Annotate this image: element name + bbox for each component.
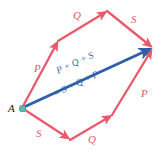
vector-addition-figure: A P Q S S Q P P + Q + S = S + Q + P — [0, 0, 164, 152]
label-upper-p: P — [34, 63, 41, 74]
label-upper-s: S — [131, 14, 137, 25]
vector-arrow-lower-s — [22, 108, 68, 138]
label-lower-s: S — [36, 128, 42, 139]
start-point-node — [19, 105, 26, 112]
vector-arrow-upper-s — [107, 11, 151, 46]
vector-arrow-upper-q — [58, 13, 105, 42]
vector-arrow-lower-p — [112, 51, 151, 115]
start-point-label: A — [8, 103, 15, 114]
label-lower-p: P — [141, 88, 148, 99]
vector-arrow-upper-p — [22, 43, 57, 108]
label-lower-q: Q — [88, 134, 96, 145]
label-upper-q: Q — [73, 10, 81, 21]
